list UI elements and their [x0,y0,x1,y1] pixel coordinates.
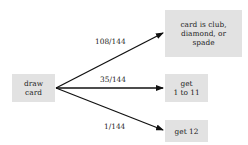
outcome-node-club-diamond-spade: card is club, diamond, or spade [165,10,242,57]
draw-card-node: draw card [12,74,55,102]
probability-label: 1/144 [104,122,125,131]
probability-tree-diagram: draw card card is club, diamond, or spad… [0,0,248,145]
outcome-node-1-to-11: get 1 to 11 [165,74,208,102]
outcome-label: card is club, diamond, or spade [180,20,226,47]
outcome-node-12: get 12 [165,120,208,142]
draw-card-label: draw card [24,79,43,97]
outcome-label: get 1 to 11 [173,79,199,97]
probability-label: 108/144 [95,37,126,46]
probability-label: 35/144 [100,75,126,84]
outcome-label: get 12 [175,127,199,136]
